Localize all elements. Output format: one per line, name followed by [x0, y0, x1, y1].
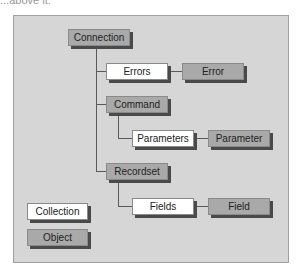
connector-fields: [118, 206, 132, 207]
node-field: Field: [208, 198, 270, 215]
node-command: Command: [106, 96, 168, 113]
connector-trunk: [96, 47, 97, 172]
connector-parameters-parameter: [194, 138, 208, 139]
node-error: Error: [182, 63, 244, 80]
connector-recordset-trunk: [118, 180, 119, 206]
cutoff-text: ...above it:: [0, 0, 51, 6]
node-connection: Connection: [68, 29, 130, 46]
legend-collection: Collection: [27, 203, 88, 220]
connector-command-trunk: [118, 113, 119, 139]
connector-fields-field: [194, 206, 208, 207]
connector-command: [96, 104, 106, 105]
node-parameter: Parameter: [208, 130, 270, 147]
node-recordset: Recordset: [106, 163, 168, 180]
node-parameters: Parameters: [132, 130, 194, 147]
connector-errors: [96, 71, 106, 72]
connector-errors-error: [168, 71, 182, 72]
node-fields: Fields: [132, 198, 194, 215]
node-errors: Errors: [106, 63, 168, 80]
connector-recordset: [96, 171, 106, 172]
legend-object: Object: [27, 229, 88, 246]
connector-parameters: [118, 138, 132, 139]
